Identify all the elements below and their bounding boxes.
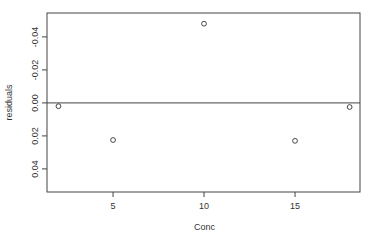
residual-plot: 51015 -0.04-0.020.000.020.04 Conc residu… bbox=[0, 0, 365, 240]
y-tick-label: 0.04 bbox=[30, 160, 40, 178]
data-points bbox=[56, 21, 352, 143]
data-point-marker bbox=[56, 104, 61, 109]
x-axis-label: Conc bbox=[194, 222, 216, 232]
x-tick-label: 5 bbox=[111, 201, 116, 211]
y-axis-label: residuals bbox=[4, 84, 14, 121]
y-tick-label: -0.04 bbox=[30, 27, 40, 48]
y-tick-label: 0.02 bbox=[30, 127, 40, 145]
data-point-marker bbox=[111, 138, 116, 143]
y-tick-label: -0.02 bbox=[30, 60, 40, 81]
x-axis: 51015 bbox=[111, 192, 300, 211]
data-point-marker bbox=[202, 21, 207, 26]
y-tick-label: 0.00 bbox=[30, 94, 40, 112]
x-tick-label: 15 bbox=[290, 201, 300, 211]
data-point-marker bbox=[347, 105, 352, 110]
y-axis: -0.04-0.020.000.020.04 bbox=[30, 27, 47, 178]
data-point-marker bbox=[293, 138, 298, 143]
x-tick-label: 10 bbox=[199, 201, 209, 211]
